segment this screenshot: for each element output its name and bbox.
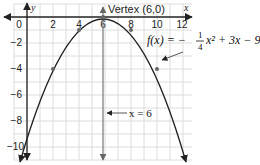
svg-text:1: 1 [198, 30, 203, 40]
svg-text:−8: −8 [11, 115, 23, 126]
svg-text:2: 2 [50, 19, 56, 30]
equation-label: f(x) = − 1 4 x² + 3x − 9 [147, 30, 260, 52]
y-axis-label: y [30, 2, 36, 13]
parabola-chart: y x 0 2 4 6 8 10 12 −2 −4 −6 −8 −10 x = … [0, 0, 260, 165]
svg-text:f(x) = −: f(x) = − [147, 33, 186, 47]
svg-text:x² + 3x − 9: x² + 3x − 9 [205, 33, 260, 47]
svg-text:0: 0 [16, 19, 22, 30]
x-tick-labels: 0 2 4 6 8 10 12 [16, 19, 188, 30]
vertex-label: Vertex (6,0) [108, 3, 165, 15]
svg-text:−2: −2 [11, 37, 23, 48]
svg-text:12: 12 [176, 19, 188, 30]
svg-text:10: 10 [151, 19, 163, 30]
svg-text:−6: −6 [11, 89, 23, 100]
svg-text:4: 4 [198, 42, 203, 52]
symmetry-label: x = 6 [129, 107, 152, 119]
svg-text:−10: −10 [7, 141, 24, 152]
x-axis-label: x [183, 2, 189, 13]
svg-text:−4: −4 [11, 63, 23, 74]
y-tick-labels: −2 −4 −6 −8 −10 [7, 37, 24, 152]
